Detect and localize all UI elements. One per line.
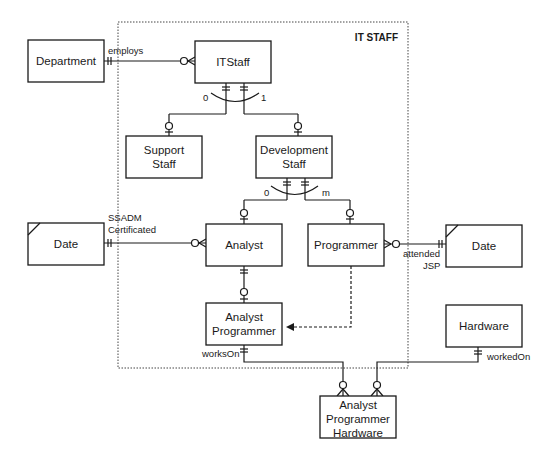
entity-label: Programmer: [314, 239, 378, 251]
label-exclusion-1: 1: [261, 92, 266, 103]
entity-label: Date: [472, 240, 496, 252]
label-jsp: JSP: [423, 260, 440, 271]
label-exclusion-dev-0: 0: [264, 187, 269, 198]
rel-analyst-analyst-programmer[interactable]: [240, 266, 248, 303]
rel-ssadm-certificated[interactable]: SSADM Certificated: [104, 212, 206, 247]
entity-development-staff[interactable]: Development Staff: [256, 136, 332, 178]
label-exclusion-0: 0: [203, 92, 208, 103]
label-ssadm: SSADM: [108, 212, 142, 223]
entities: Department ITStaff Support Staff Develop…: [28, 40, 522, 439]
rel-employs[interactable]: employs: [104, 45, 195, 65]
entity-label: Analyst: [339, 399, 378, 411]
entity-hardware[interactable]: Hardware: [446, 305, 522, 347]
rel-works-on[interactable]: worksOn: [201, 345, 349, 396]
entity-support-staff[interactable]: Support Staff: [126, 136, 202, 178]
entity-analyst[interactable]: Analyst: [206, 224, 282, 266]
entity-programmer[interactable]: Programmer: [308, 224, 384, 266]
rel-development-subtypes[interactable]: 0 m: [240, 178, 354, 224]
entity-label: Analyst: [225, 311, 264, 323]
entity-label: Analyst: [225, 239, 264, 251]
entity-label: Date: [54, 238, 78, 250]
entity-label: Staff: [282, 158, 306, 170]
entity-label: Development: [260, 144, 329, 156]
label-works-on: worksOn: [201, 348, 239, 359]
entity-label: Department: [36, 55, 97, 67]
entity-label: Programmer: [326, 413, 390, 425]
entity-analyst-programmer[interactable]: Analyst Programmer: [206, 303, 282, 345]
label-exclusion-dev-m: m: [322, 187, 330, 198]
rel-worked-on[interactable]: workedOn: [371, 347, 530, 396]
rel-attended-jsp[interactable]: attended JSP: [384, 240, 446, 271]
label-certificated: Certificated: [108, 224, 156, 235]
entity-label: ITStaff: [216, 56, 250, 68]
rel-itstaff-subtypes[interactable]: 0 1: [165, 83, 302, 136]
entity-label: Hardware: [333, 427, 383, 439]
entity-date-right[interactable]: Date: [446, 225, 522, 267]
entity-department[interactable]: Department: [28, 40, 104, 82]
boundary-title: IT STAFF: [355, 32, 398, 43]
entity-label: Staff: [152, 158, 176, 170]
entity-label: Hardware: [459, 320, 509, 332]
rel-programmer-analyst-programmer[interactable]: [287, 266, 351, 327]
entity-itstaff[interactable]: ITStaff: [195, 41, 271, 83]
label-worked-on: workedOn: [486, 351, 530, 362]
label-employs: employs: [108, 45, 144, 56]
entity-analyst-programmer-hardware[interactable]: Analyst Programmer Hardware: [320, 396, 396, 439]
er-diagram: IT STAFF employs 0 1: [0, 0, 559, 458]
entity-label: Programmer: [212, 325, 276, 337]
entity-date-left[interactable]: Date: [28, 223, 104, 265]
entity-label: Support: [144, 144, 185, 156]
label-attended: attended: [403, 248, 440, 259]
